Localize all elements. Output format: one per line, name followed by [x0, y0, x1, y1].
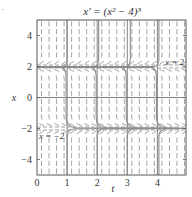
- slope-mark: [154, 76, 155, 81]
- slope-mark: [92, 131, 96, 134]
- x-tick-label: 0: [35, 177, 40, 188]
- slope-mark: [86, 76, 87, 81]
- slope-mark: [54, 124, 59, 126]
- slope-mark: [94, 114, 95, 119]
- slope-mark: [41, 114, 42, 119]
- slope-mark: [77, 69, 82, 71]
- slope-mark: [175, 124, 180, 126]
- slope-mark: [92, 61, 96, 64]
- slope-mark: [62, 61, 66, 64]
- slope-mark: [160, 69, 165, 71]
- x-tick-label: 3: [125, 177, 130, 188]
- slope-mark: [137, 131, 141, 134]
- slope-mark: [84, 124, 89, 126]
- slope-mark: [54, 61, 58, 64]
- slope-mark: [69, 61, 73, 64]
- slope-mark: [124, 76, 125, 81]
- slope-mark: [137, 124, 142, 126]
- slope-mark: [56, 114, 57, 119]
- slope-mark: [137, 69, 142, 71]
- corner-mark: .: [2, 2, 4, 12]
- slope-mark: [100, 131, 104, 134]
- y-axis-label: x: [11, 92, 17, 103]
- slope-mark: [94, 76, 95, 81]
- slope-mark: [77, 124, 82, 126]
- slope-mark: [100, 61, 104, 64]
- slope-mark: [107, 124, 112, 126]
- slope-mark: [99, 69, 104, 71]
- slope-mark: [79, 76, 80, 81]
- slope-mark: [115, 61, 119, 64]
- slope-mark: [137, 61, 141, 64]
- slope-mark: [56, 76, 57, 81]
- solution-curve: [127, 129, 186, 176]
- slope-mark: [177, 76, 178, 81]
- slope-mark: [54, 69, 59, 71]
- slope-mark: [147, 76, 148, 81]
- x-axis-ticks: 01234: [35, 177, 160, 188]
- slope-mark: [115, 131, 119, 134]
- slope-mark: [167, 131, 171, 134]
- slope-mark: [114, 69, 119, 71]
- slope-mark: [47, 124, 52, 126]
- slope-mark: [169, 114, 170, 119]
- slope-mark: [124, 114, 125, 119]
- slope-mark: [154, 114, 155, 119]
- solution-curve: [37, 20, 99, 67]
- slope-mark: [39, 124, 44, 126]
- slope-mark: [145, 61, 149, 64]
- y-tick-label: −4: [21, 154, 32, 165]
- equilibrium-label-top: x = 2: [164, 57, 185, 67]
- solution-curve: [67, 129, 186, 176]
- slope-mark: [184, 114, 185, 119]
- slope-mark: [49, 76, 50, 81]
- direction-field-figure: . x′ = (x² − 4)³ 420−2−4 01234 x t x = 2…: [0, 0, 192, 197]
- slope-mark: [152, 61, 156, 64]
- slope-mark: [152, 124, 157, 126]
- slope-mark: [101, 114, 102, 119]
- slope-mark: [64, 76, 65, 81]
- solution-curve: [37, 20, 159, 67]
- slope-mark: [71, 114, 72, 119]
- slope-mark: [167, 124, 172, 126]
- slope-mark: [152, 131, 156, 134]
- slope-mark: [145, 131, 149, 134]
- slope-mark: [84, 61, 88, 64]
- x-axis-label: t: [112, 183, 115, 194]
- slope-mark: [169, 76, 170, 81]
- x-tick-label: 1: [65, 177, 70, 188]
- slope-mark: [69, 131, 73, 134]
- y-tick-label: −2: [21, 123, 32, 134]
- slope-mark: [167, 69, 172, 71]
- slope-mark: [71, 76, 72, 81]
- slope-mark: [114, 124, 119, 126]
- slope-mark: [62, 124, 67, 126]
- slope-mark: [139, 76, 140, 81]
- slope-mark: [162, 114, 163, 119]
- solution-curve: [97, 129, 186, 176]
- slope-mark: [175, 131, 179, 134]
- slope-mark: [160, 61, 164, 64]
- slope-mark: [79, 114, 80, 119]
- equilibrium-label-bottom: x = −2: [38, 131, 65, 141]
- x-tick-label: 4: [155, 177, 160, 188]
- y-tick-label: 2: [27, 61, 32, 72]
- slope-mark: [84, 131, 88, 134]
- solution-curve: [37, 20, 130, 67]
- slope-mark: [107, 61, 111, 64]
- slope-mark: [177, 114, 178, 119]
- slope-mark: [49, 114, 50, 119]
- gridlines: [37, 20, 186, 175]
- slope-mark: [129, 69, 134, 71]
- slope-mark: [77, 61, 81, 64]
- slope-mark: [64, 114, 65, 119]
- slope-mark: [47, 69, 52, 71]
- slope-mark: [39, 61, 43, 64]
- x-tick-label: 2: [95, 177, 100, 188]
- y-tick-label: 0: [27, 92, 32, 103]
- slope-mark: [144, 69, 149, 71]
- solution-curve: [37, 20, 67, 67]
- slope-mark: [131, 76, 132, 81]
- slope-mark: [86, 114, 87, 119]
- slope-mark: [130, 131, 134, 134]
